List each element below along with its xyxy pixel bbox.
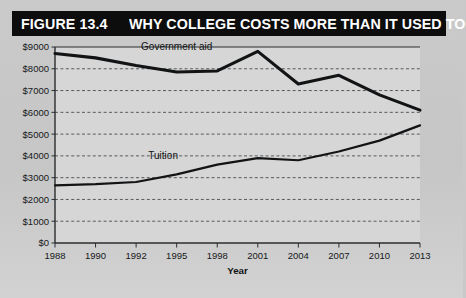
x-axis-tick-label: 2010 (369, 250, 390, 261)
x-axis-tick-label: 2007 (328, 250, 349, 261)
y-axis-tick-label: $9000 (23, 41, 49, 52)
y-axis-tick-label: $2000 (23, 194, 49, 205)
y-axis-tick-label: $3000 (23, 172, 49, 183)
y-axis-tick-label: $1000 (23, 216, 49, 227)
y-axis-tick-label: $5000 (23, 129, 49, 140)
y-axis-tick-label: $6000 (23, 107, 49, 118)
x-axis-title: Year (227, 265, 248, 276)
x-axis-tick-label: 1998 (207, 250, 228, 261)
x-axis-tick-labels: 1988199019921995199820012004200720102013 (44, 243, 430, 261)
x-axis-tick-label: 1995 (166, 250, 187, 261)
line-chart-svg: $0$1000$2000$3000$4000$5000$6000$7000$80… (0, 36, 463, 298)
figure-number: FIGURE 13.4 (21, 15, 108, 33)
x-axis-tick-label: 2004 (288, 250, 309, 261)
x-axis-tick-label: 1990 (85, 250, 106, 261)
y-axis-tick-labels: $0$1000$2000$3000$4000$5000$6000$7000$80… (23, 41, 55, 248)
x-axis-tick-label: 1992 (126, 250, 147, 261)
chart-plot-area: $0$1000$2000$3000$4000$5000$6000$7000$80… (0, 36, 463, 298)
y-axis-tick-label: $8000 (23, 63, 49, 74)
page-title: WHY COLLEGE COSTS MORE THAN IT USED TO (129, 15, 466, 33)
x-axis-tick-label: 2001 (247, 250, 268, 261)
y-axis-tick-label: $4000 (23, 150, 49, 161)
x-axis-tick-label: 2013 (409, 250, 430, 261)
x-axis-tick-label: 1988 (44, 250, 65, 261)
series-label-tuition: Tuition (148, 150, 178, 161)
y-axis-tick-label: $0 (38, 237, 49, 248)
y-axis-tick-label: $7000 (23, 85, 49, 96)
series-label-government-aid: Government aid (141, 41, 212, 52)
figure-title-bar: FIGURE 13.4 WHY COLLEGE COSTS MORE THAN … (12, 11, 446, 36)
